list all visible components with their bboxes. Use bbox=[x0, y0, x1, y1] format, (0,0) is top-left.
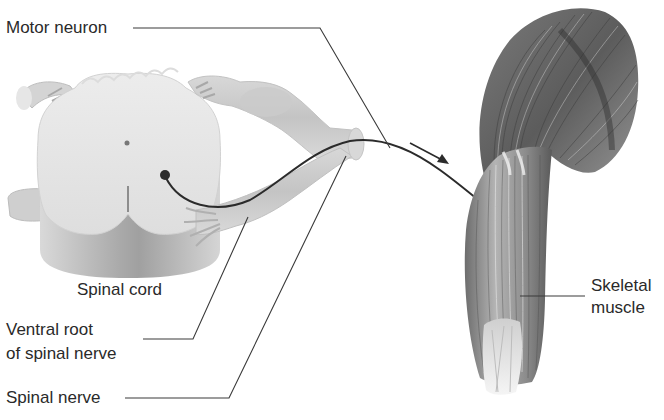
label-skeletal-muscle-line2: muscle bbox=[591, 298, 645, 318]
muscle-tendon bbox=[483, 318, 522, 394]
label-spinal-cord: Spinal cord bbox=[77, 280, 162, 300]
dorsal-root-ganglion bbox=[240, 87, 292, 117]
central-canal bbox=[125, 141, 130, 146]
label-ventral-root-line2: of spinal nerve bbox=[6, 344, 117, 364]
label-skeletal-muscle-line1: Skeletal bbox=[591, 276, 651, 296]
label-spinal-nerve: Spinal nerve bbox=[6, 388, 101, 408]
spinal-cord-illustration bbox=[8, 68, 364, 278]
motor-neuron-cell-body bbox=[160, 170, 170, 180]
skeletal-muscle-illustration bbox=[465, 8, 638, 395]
spinal-nerve-cut-end bbox=[348, 128, 364, 160]
label-ventral-root-line1: Ventral root bbox=[6, 320, 93, 340]
label-motor-neuron: Motor neuron bbox=[6, 18, 107, 38]
